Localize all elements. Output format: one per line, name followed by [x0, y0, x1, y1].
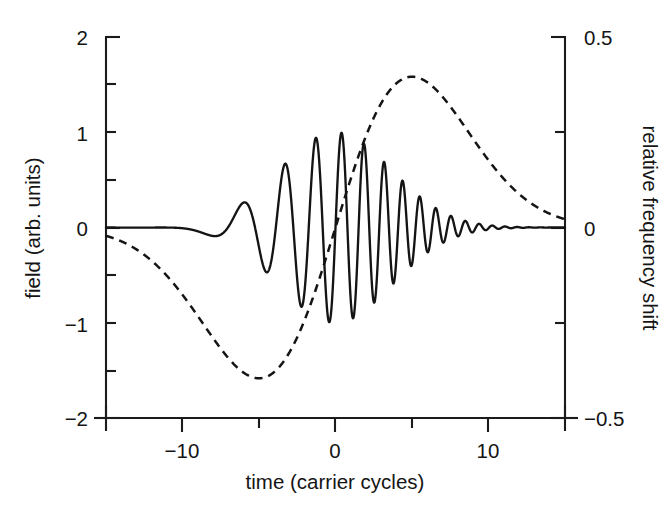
y2-axis-title: relative frequency shift [639, 125, 662, 330]
right-tick-label-neg05: −0.5 [584, 407, 624, 430]
chart-canvas: 0.5 0 −0.5 −10 0 10 time (carrier cycles… [0, 0, 671, 507]
left-tick-label-2: 2 [77, 26, 88, 49]
left-tick-label-1: 1 [77, 122, 88, 145]
figure-root: 0.5 0 −0.5 −10 0 10 time (carrier cycles… [0, 0, 671, 507]
y-axis-title: field (arb. units) [21, 157, 44, 298]
bottom-tick-label-10: 10 [477, 439, 500, 462]
bottom-tick-label-0: 0 [329, 439, 340, 462]
right-tick-label-0: 0 [584, 217, 595, 240]
left-tick-label-neg2: −2 [65, 407, 88, 430]
x-axis-title: time (carrier cycles) [246, 470, 425, 493]
left-tick-label-neg1: −1 [65, 313, 88, 336]
left-tick-label-0: 0 [77, 217, 88, 240]
bottom-tick-label-neg10: −10 [165, 439, 200, 462]
field-curve [106, 133, 565, 322]
right-tick-label-05: 0.5 [584, 26, 613, 49]
